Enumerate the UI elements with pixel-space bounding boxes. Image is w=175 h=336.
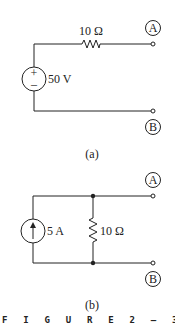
terminal-b-node-icon <box>151 261 155 265</box>
figure-caption: F I G U R E 2 – 3 1 <box>2 315 175 325</box>
resistor-b-label: 10 Ω <box>100 224 124 238</box>
junction-top-dot-icon <box>91 194 95 198</box>
terminal-a-node-icon <box>151 42 155 46</box>
wire-b-bottom <box>33 243 151 263</box>
junction-bottom-dot-icon <box>91 261 95 265</box>
resistor-b-icon <box>89 196 97 263</box>
wire-a-top-left <box>34 44 82 67</box>
circuit-b <box>21 173 161 287</box>
current-arrowhead-icon <box>30 222 36 228</box>
current-source-label: 5 A <box>47 224 64 238</box>
resistor-a-label: 10 Ω <box>79 24 103 38</box>
resistor-a-icon <box>82 40 100 48</box>
terminal-b-label: B <box>149 120 157 134</box>
terminal-a-label: A <box>149 173 158 187</box>
voltage-source-label: 50 V <box>48 72 72 86</box>
terminal-b-label: B <box>149 272 157 286</box>
wire-b-top <box>33 196 151 219</box>
terminal-b-node-icon <box>151 109 155 113</box>
wire-a-bottom <box>34 91 151 111</box>
circuit-figure: + – 10 Ω 50 V A B (a) 5 A 10 Ω A B (b) <box>0 0 175 336</box>
terminal-a-node-icon <box>151 194 155 198</box>
terminal-a-label: A <box>149 21 158 35</box>
circuit-b-label: (b) <box>85 298 99 312</box>
voltage-source-minus: – <box>30 77 38 91</box>
circuit-a-label: (a) <box>85 147 98 161</box>
